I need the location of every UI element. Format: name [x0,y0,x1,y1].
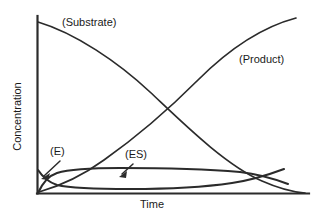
enzyme-label: (E) [50,146,65,157]
substrate-label: (Substrate) [62,17,116,28]
product-label: (Product) [239,54,284,65]
enzyme-kinetics-plot [0,0,314,223]
x-axis-label: Time [140,199,164,210]
product-curve [39,18,296,192]
enzyme-substrate-label: (ES) [125,149,147,160]
figure-canvas: (Substrate) (Product) (E) (ES) Time Conc… [0,0,314,223]
es-pointer-arrow [119,164,133,178]
substrate-curve [38,22,305,193]
y-axis-label: Concentration [12,72,23,162]
